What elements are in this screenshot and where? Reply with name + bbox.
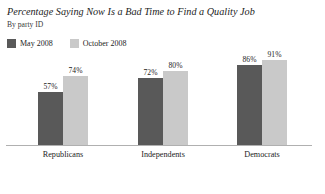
bar-republicans-october-2008: 74% (63, 52, 88, 145)
bar-rect (63, 76, 88, 145)
bar-rect (38, 92, 63, 145)
bar-value-label: 74% (59, 66, 93, 75)
category-label-democrats: Democrats (202, 150, 322, 160)
legend-item-may-2008: May 2008 (7, 38, 53, 49)
axis-baseline (6, 145, 312, 146)
legend-swatch-may-2008 (7, 39, 16, 48)
bar-group-independents: 72% 80% (138, 52, 188, 145)
bar-democrats-may-2008: 86% (237, 52, 262, 145)
plot-area: 57% 74% 72% 80% 86% (0, 52, 325, 146)
bar-value-label: 80% (159, 61, 193, 70)
bar-group-democrats: 86% 91% (237, 52, 287, 145)
legend-label-october-2008: October 2008 (83, 39, 127, 48)
bar-group-republicans: 57% 74% (38, 52, 88, 145)
bar-value-label: 91% (258, 50, 292, 59)
legend-label-may-2008: May 2008 (20, 39, 53, 48)
bar-rect (237, 65, 262, 145)
bar-rect (138, 78, 163, 145)
chart-figure: Percentage Saying Now Is a Bad Time to F… (0, 0, 325, 194)
legend-swatch-october-2008 (70, 39, 79, 48)
bar-rect (163, 71, 188, 145)
bar-democrats-october-2008: 91% (262, 52, 287, 145)
bar-rect (262, 60, 287, 145)
chart-subtitle: By party ID (7, 20, 43, 29)
legend-item-october-2008: October 2008 (70, 38, 127, 49)
bar-independents-october-2008: 80% (163, 52, 188, 145)
chart-title: Percentage Saying Now Is a Bad Time to F… (7, 6, 255, 18)
chart-legend: May 2008 October 2008 (7, 38, 126, 49)
